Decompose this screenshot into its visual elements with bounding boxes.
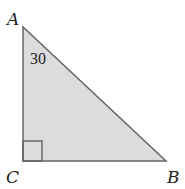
vertex-label-b: B	[166, 167, 180, 187]
vertex-label-a: A	[5, 9, 19, 29]
angle-label-a: 30	[30, 50, 46, 67]
vertex-label-c: C	[6, 167, 19, 187]
triangle-abc	[23, 27, 166, 161]
triangle-diagram: A B C 30	[0, 0, 185, 189]
